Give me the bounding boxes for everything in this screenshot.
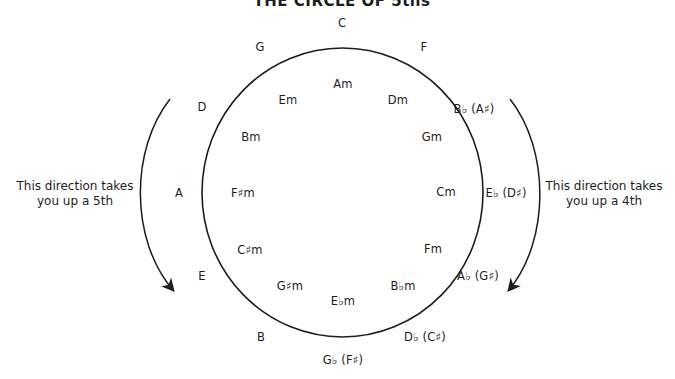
- major-key-d: D: [197, 102, 206, 114]
- minor-key-cm: Cm: [436, 187, 456, 199]
- minor-key-fm: Fm: [424, 244, 442, 256]
- major-key-eb: E♭ (D♯): [485, 188, 526, 200]
- major-key-f: F: [421, 42, 428, 54]
- annotation-up-a-fourth: This direction takes you up a 4th: [546, 179, 663, 209]
- minor-key-csm: C♯m: [237, 245, 262, 257]
- minor-key-gsm: G♯m: [277, 281, 303, 293]
- major-key-b: B: [257, 332, 265, 344]
- minor-key-em: Em: [279, 95, 298, 107]
- minor-key-am: Am: [333, 79, 352, 91]
- major-key-c: C: [338, 18, 346, 30]
- annotation-line: This direction takes: [546, 179, 663, 194]
- circle-of-fifths-diagram: THE CIRCLE OF 5ths CGFDB♭ (A♯)AE♭ (D♯)EA…: [0, 0, 675, 379]
- major-key-a: A: [175, 188, 183, 200]
- minor-key-dm: Dm: [388, 95, 408, 107]
- major-key-bb: B♭ (A♯): [454, 104, 495, 116]
- major-key-ab: A♭ (G♯): [457, 271, 499, 283]
- fifths-direction-arrow-icon: [140, 99, 173, 290]
- annotation-line: you up a 5th: [17, 194, 134, 209]
- minor-key-gm: Gm: [422, 132, 443, 144]
- major-key-db: D♭ (C♯): [404, 332, 446, 344]
- major-key-g: G: [255, 42, 264, 54]
- major-key-e: E: [198, 271, 205, 283]
- minor-key-bm: Bm: [241, 132, 261, 144]
- annotation-line: you up a 4th: [546, 194, 663, 209]
- major-key-gb: G♭ (F♯): [323, 355, 364, 367]
- annotation-line: This direction takes: [17, 179, 134, 194]
- minor-key-ebm: E♭m: [331, 296, 356, 308]
- annotation-up-a-fifth: This direction takes you up a 5th: [17, 179, 134, 209]
- minor-key-fsm: F♯m: [231, 188, 255, 200]
- minor-key-bbm: B♭m: [390, 281, 415, 293]
